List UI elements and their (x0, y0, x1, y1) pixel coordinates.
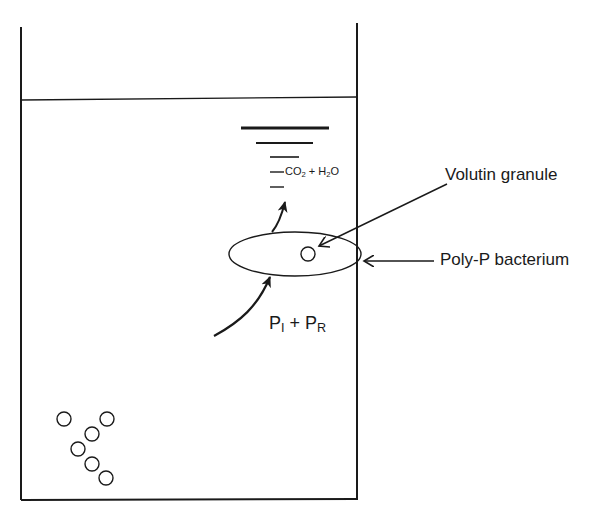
volutin-granule-circle (301, 247, 315, 261)
poly-p-bacterium-cell (229, 232, 361, 276)
leader-volutin-granule (319, 184, 447, 246)
water-surface-line (21, 97, 357, 100)
sediment-circle (99, 471, 113, 485)
sediment-circle (57, 412, 71, 426)
sediment-circle (85, 427, 99, 441)
volutin-granule-label: Volutin granule (445, 165, 557, 185)
gas-lines (241, 128, 329, 187)
arrow-to-co2 (272, 202, 285, 232)
co2-h2o-label: CO2 + H2O (285, 165, 339, 177)
arrow-phosphate-uptake (214, 277, 270, 336)
poly-p-bacterium-label: Poly-P bacterium (440, 250, 569, 270)
sediment-circle (100, 412, 114, 426)
sediment-granules (57, 412, 114, 485)
tank-bottom (21, 499, 357, 500)
sediment-circle (85, 457, 99, 471)
phosphate-label: PI + PR (269, 313, 326, 334)
sediment-circle (71, 442, 85, 456)
